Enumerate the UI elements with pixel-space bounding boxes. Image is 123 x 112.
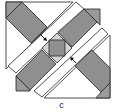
center-square <box>49 40 65 56</box>
figure-caption: c <box>0 99 123 111</box>
quilt-block-diagram <box>0 0 123 112</box>
